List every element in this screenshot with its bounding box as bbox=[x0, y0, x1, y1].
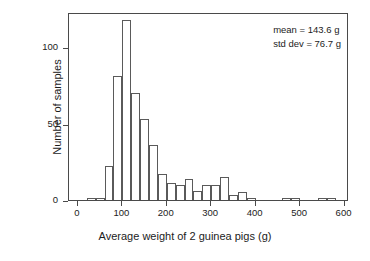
histogram-bar bbox=[282, 198, 291, 200]
histogram-bar bbox=[105, 166, 114, 200]
x-tick-label: 100 bbox=[101, 207, 141, 218]
histogram-bar bbox=[96, 198, 105, 200]
histogram-bar bbox=[247, 198, 256, 200]
x-tick-label: 300 bbox=[190, 207, 230, 218]
histogram-bar bbox=[238, 192, 247, 200]
x-tick bbox=[121, 201, 122, 206]
y-tick-label: 100 bbox=[28, 41, 58, 52]
histogram-bar bbox=[113, 76, 122, 200]
histogram-bar bbox=[185, 179, 194, 200]
x-tick bbox=[210, 201, 211, 206]
histogram-bar bbox=[211, 185, 220, 200]
x-axis-title: Average weight of 2 guinea pigs (g) bbox=[0, 230, 370, 242]
plot-frame: mean = 143.6 g std dev = 76.7 g bbox=[68, 13, 348, 201]
histogram-bar bbox=[149, 145, 158, 200]
x-tick-label: 200 bbox=[146, 207, 186, 218]
y-axis-title: Number of samples bbox=[51, 59, 63, 154]
x-tick-label: 0 bbox=[57, 207, 97, 218]
y-tick bbox=[63, 125, 68, 126]
histogram-bar bbox=[122, 20, 131, 200]
x-tick-label: 500 bbox=[279, 207, 319, 218]
histogram-bar bbox=[202, 185, 211, 200]
histogram-bar bbox=[291, 198, 300, 200]
histogram-bar bbox=[193, 191, 202, 200]
stddev-annotation: std dev = 76.7 g bbox=[273, 37, 341, 51]
x-tick bbox=[255, 201, 256, 206]
x-tick-label: 600 bbox=[324, 207, 364, 218]
histogram-bar bbox=[229, 195, 238, 200]
y-tick bbox=[63, 48, 68, 49]
x-tick bbox=[77, 201, 78, 206]
statistics-annotation: mean = 143.6 g std dev = 76.7 g bbox=[273, 23, 341, 51]
histogram-bar bbox=[87, 198, 96, 200]
histogram-bar bbox=[140, 119, 149, 200]
histogram-bar bbox=[327, 198, 336, 200]
histogram-bar bbox=[131, 93, 140, 200]
x-tick bbox=[299, 201, 300, 206]
histogram-bar bbox=[318, 198, 327, 200]
histogram-bar bbox=[167, 183, 176, 200]
y-tick bbox=[63, 201, 68, 202]
x-tick-label: 400 bbox=[235, 207, 275, 218]
mean-annotation: mean = 143.6 g bbox=[273, 23, 341, 37]
x-tick bbox=[166, 201, 167, 206]
histogram-bar bbox=[176, 185, 185, 200]
histogram-bar bbox=[158, 174, 167, 200]
y-tick-label: 0 bbox=[28, 194, 58, 205]
histogram-figure: mean = 143.6 g std dev = 76.7 g 01002003… bbox=[0, 0, 370, 261]
x-tick bbox=[344, 201, 345, 206]
histogram-bar bbox=[220, 177, 229, 200]
